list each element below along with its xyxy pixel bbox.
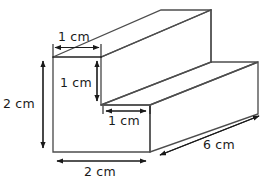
dimension-label-total-width: 2 cm [84, 166, 116, 179]
dimension-label-top-notch-width: 1 cm [58, 31, 90, 44]
dimension-label-step-tread-depth: 1 cm [108, 115, 140, 128]
dimension-label-notch-height: 1 cm [60, 77, 92, 90]
dimension-label-total-height: 2 cm [3, 98, 35, 111]
step-tread-face [101, 62, 258, 105]
diagram-canvas: 1 cm 1 cm 1 cm 2 cm 2 cm 6 cm [0, 0, 272, 184]
riser-top-back-line [101, 10, 211, 57]
dimension-label-length: 6 cm [203, 139, 235, 152]
l-prism-figure [0, 0, 272, 184]
